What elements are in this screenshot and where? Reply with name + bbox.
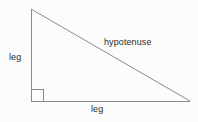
- right-angle-square-icon: [31, 89, 43, 101]
- right-triangle-diagram: leg hypotenuse leg: [0, 0, 198, 122]
- label-leg-horizontal: leg: [91, 104, 103, 115]
- label-hypotenuse: hypotenuse: [104, 37, 152, 48]
- label-leg-vertical: leg: [9, 52, 21, 63]
- hypotenuse-line: [31, 9, 190, 101]
